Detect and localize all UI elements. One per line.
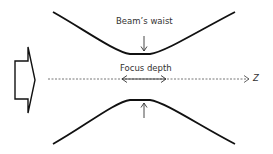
z-axis-label: Z (253, 74, 259, 83)
beams-waist-label: Beam’s waist (116, 17, 173, 26)
source-arrow-icon (15, 47, 35, 113)
focus-depth-label: Focus depth (120, 64, 172, 73)
